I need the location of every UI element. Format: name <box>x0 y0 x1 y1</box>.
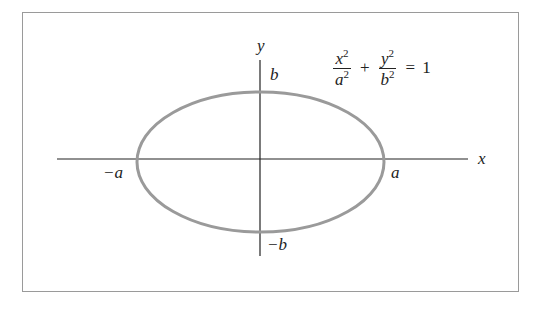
term-x-denominator: a2 <box>333 69 351 89</box>
intercept-pos-y-label: b <box>270 66 279 83</box>
intercept-pos-x-label: a <box>391 164 400 181</box>
equals-sign: = <box>406 58 416 78</box>
intercept-neg-y-label: −b <box>267 236 287 253</box>
term-x-denominator-exp: 2 <box>344 68 350 80</box>
equation-term-y: y2 b2 <box>379 48 397 88</box>
term-y-numerator-exp: 2 <box>389 47 395 59</box>
ellipse-plot <box>0 0 544 309</box>
y-axis-label: y <box>257 37 265 54</box>
term-y-denominator-exp: 2 <box>389 68 395 80</box>
term-x-numerator: x2 <box>333 48 350 69</box>
term-y-denominator: b2 <box>379 69 397 89</box>
equation-rhs: 1 <box>422 58 431 78</box>
term-y-numerator-var: y <box>381 49 389 68</box>
term-x-denominator-var: a <box>335 69 344 88</box>
plus-sign: + <box>360 58 370 78</box>
term-y-numerator: y2 <box>379 48 396 69</box>
x-axis-label: x <box>478 150 486 167</box>
intercept-neg-x-label: −a <box>103 164 123 181</box>
term-x-numerator-exp: 2 <box>343 47 349 59</box>
term-x-numerator-var: x <box>335 49 343 68</box>
term-y-denominator-var: b <box>381 69 390 88</box>
ellipse-equation: x2 a2 + y2 b2 = 1 <box>331 48 431 88</box>
equation-term-x: x2 a2 <box>333 48 351 88</box>
